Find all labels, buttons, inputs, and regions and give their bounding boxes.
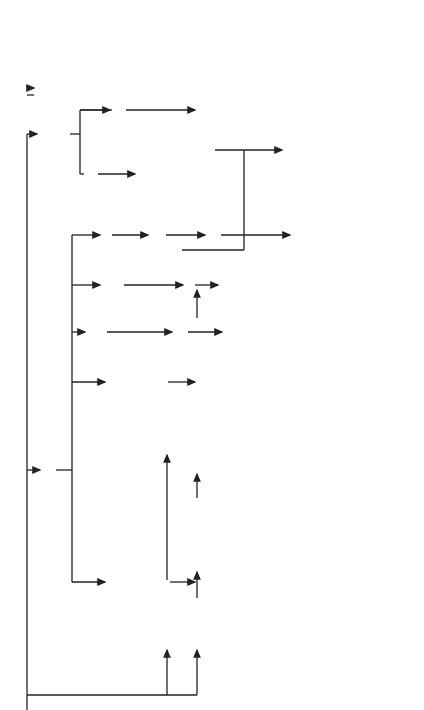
reaction-arrows — [0, 0, 424, 710]
synthesis-diagram — [0, 0, 424, 710]
